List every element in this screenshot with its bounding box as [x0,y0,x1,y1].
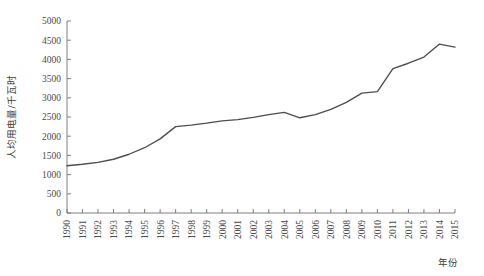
x-tick-label: 1996 [156,220,166,239]
y-tick-label: 1500 [42,151,61,161]
x-tick-label: 2004 [280,220,290,239]
y-tick-label: 5000 [42,16,61,26]
y-tick-label: 0 [56,208,61,218]
x-tick-label: 2003 [264,220,274,239]
x-tick-label: 2001 [233,220,243,239]
y-tick-label: 2000 [42,132,61,142]
x-tick-label: 1997 [171,220,181,239]
x-tick-label: 1991 [78,220,88,239]
x-tick-label: 2009 [357,220,367,239]
x-tick-label: 1993 [109,220,119,239]
x-tick-label: 2014 [435,220,445,239]
x-tick-label: 2015 [450,220,460,239]
x-tick-label: 2007 [326,220,336,239]
x-tick-label: 2000 [218,220,228,239]
line-chart: 0500100015002000250030003500400045005000… [0,0,484,276]
y-tick-label: 500 [47,189,62,199]
y-tick-label: 3500 [42,74,61,84]
x-tick-label: 2008 [342,220,352,239]
x-tick-label: 1995 [140,220,150,239]
chart-canvas: 0500100015002000250030003500400045005000… [0,0,484,276]
y-tick-label: 1000 [42,170,61,180]
x-tick-label: 2002 [249,220,259,239]
x-tick-label: 2005 [295,220,305,239]
y-tick-label: 4000 [42,55,61,65]
x-tick-label: 2010 [373,220,383,239]
x-tick-label: 1998 [187,220,197,239]
x-tick-label: 2011 [388,220,398,239]
y-tick-label: 2500 [42,112,61,122]
x-tick-label: 1992 [93,220,103,239]
x-axis-title: 年份 [438,257,458,268]
x-tick-label: 1999 [202,220,212,239]
x-tick-label: 1990 [62,220,72,239]
x-tick-label: 2012 [404,220,414,239]
y-axis-title: 人均用电量/千瓦时 [6,75,17,158]
x-tick-label: 1994 [124,220,134,239]
x-tick-label: 2013 [419,220,429,239]
x-tick-label: 2006 [311,220,321,239]
y-tick-label: 3000 [42,93,61,103]
y-tick-label: 4500 [42,36,61,46]
